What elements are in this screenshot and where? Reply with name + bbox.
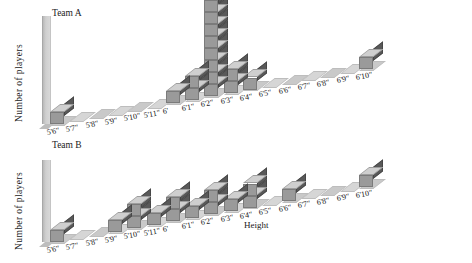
cube-face-left [204,24,218,36]
x-axis-tick-label: 6'1" [181,220,195,231]
cube-face-left [359,57,373,69]
x-axis-tick-label: 5'11" [143,226,161,238]
cube-face-left [185,206,199,218]
y-axis-label-team-b: Number of players [14,172,24,250]
cube-face-left [282,189,296,201]
x-axis-label-team-b: Height [244,220,269,230]
x-axis-tick-label: 6'2" [200,98,214,109]
y-axis-label-team-a: Number of players [14,44,24,122]
cube-face-left [224,81,238,93]
x-axis-tick-label: 6'10" [355,70,373,82]
x-axis-tick-label: 6'1" [181,102,195,113]
x-axis-tick-label: 6'4" [239,91,253,102]
x-axis-tick-label: 6' [162,224,169,234]
chart-title-team-b: Team B [52,140,82,150]
x-axis-tick-label: 5'10" [123,229,141,241]
cube-face-left [108,220,122,232]
chart-title-team-a: Team A [52,8,82,18]
x-axis-tick-label: 6'3" [220,95,234,106]
x-axis-tick-label: 6'9" [336,74,350,85]
cube-face-left [50,230,64,242]
cube-face-left [204,48,218,60]
cube-face-left [204,0,218,12]
plot-area-team-b: Team B Number of players Height 5'6"5'7"… [0,132,472,263]
cube-face-left [204,84,218,96]
cube-face-left [185,88,199,100]
cube-face-left [204,202,218,214]
x-axis-tick-label: 6'6" [278,202,292,213]
x-axis-tick-label: 6'8" [316,195,330,206]
cube-face-left [166,91,180,103]
cube-face-left [50,112,64,124]
x-axis-tick-label: 6'2" [200,216,214,227]
x-axis-tick-label: 5'11" [143,108,161,120]
cube-face-left [147,213,161,225]
x-axis-tick-label: 5'7" [65,240,79,251]
chart-team-a: Team A Number of players 5'6"5'7"5'8"5'9… [0,0,472,131]
x-axis-tick-label: 6'7" [297,199,311,210]
x-axis-tick-label: 6'7" [297,81,311,92]
x-axis-tick-label: 6'9" [336,192,350,203]
x-axis-tick-label: 5'8" [85,237,99,248]
x-axis-tick-label: 5'9" [104,233,118,244]
cube-face-left [204,12,218,24]
x-axis-tick-label: 6'10" [355,188,373,200]
cube-face-left [204,36,218,48]
x-axis-tick-label: 6'5" [258,206,272,217]
x-axis-tick-label: 5'9" [104,115,118,126]
x-axis-tick-label: 6'8" [316,77,330,88]
x-axis-tick-label: 5'6" [46,244,60,255]
x-axis-tick-label: 5'8" [85,119,99,130]
cube-face-left [359,175,373,187]
y-axis-team-a [42,16,50,124]
plot-area-team-a: Team A Number of players 5'6"5'7"5'8"5'9… [0,0,472,131]
chart-team-b: Team B Number of players Height 5'6"5'7"… [0,132,472,263]
x-axis-tick-label: 6'6" [278,84,292,95]
x-axis-tick-label: 6'3" [220,213,234,224]
x-axis-tick-label: 6'4" [239,209,253,220]
cube-face-left [224,199,238,211]
x-axis-tick-label: 6'5" [258,88,272,99]
x-axis-tick-label: 6' [162,106,169,116]
x-axis-tick-label: 5'10" [123,111,141,123]
